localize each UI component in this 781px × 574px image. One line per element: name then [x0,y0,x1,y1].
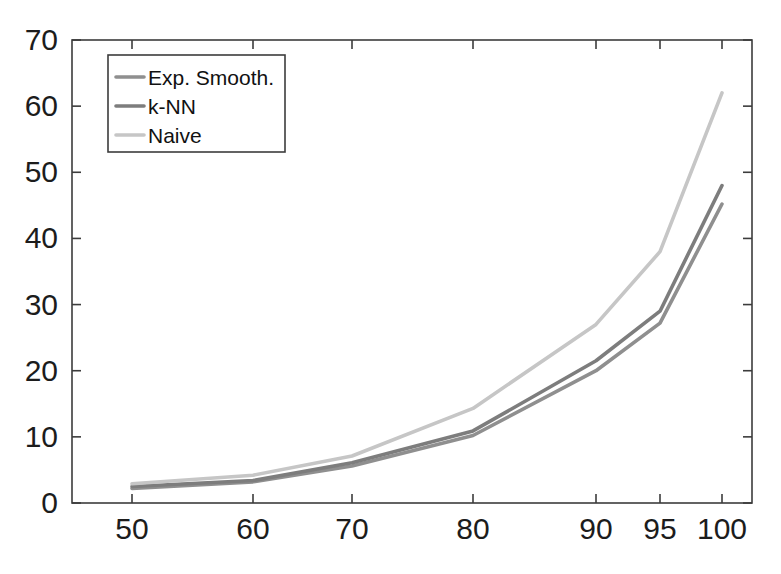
x-axis-label-100: 100 [697,512,747,545]
y-axis-label-0: 0 [41,486,58,519]
x-axis-label-60: 60 [236,512,269,545]
y-axis-label-50: 50 [25,155,58,188]
legend-label-naive: Naive [148,124,202,147]
chart-container: 010203040506070506070809095100 Exp. Smoo… [0,0,781,574]
y-axis-label-60: 60 [25,89,58,122]
y-axis-label-40: 40 [25,221,58,254]
x-axis-label-70: 70 [335,512,368,545]
line-chart: 010203040506070506070809095100 Exp. Smoo… [0,0,781,574]
y-axis-label-10: 10 [25,420,58,453]
x-axis-label-50: 50 [115,512,148,545]
legend-label-k-nn: k-NN [148,95,196,118]
x-axis-label-90: 90 [579,512,612,545]
x-axis-label-95: 95 [643,512,676,545]
y-axis-label-70: 70 [25,23,58,56]
legend-label-exp-smooth: Exp. Smooth. [148,66,274,89]
y-axis-label-20: 20 [25,354,58,387]
y-axis-label-30: 30 [25,288,58,321]
chart-legend: Exp. Smooth.k-NNNaive [108,55,285,152]
x-axis-label-80: 80 [456,512,489,545]
